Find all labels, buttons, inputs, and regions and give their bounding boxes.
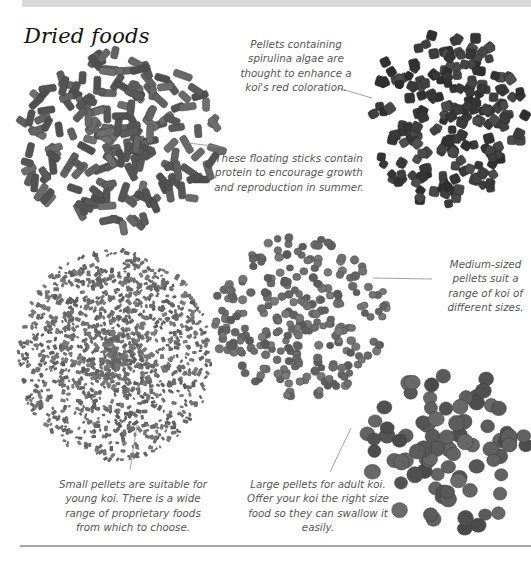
caption-small-pellets: Small pellets are suitable for young koi…: [54, 477, 212, 535]
caption-floating-sticks: These floating sticks contain protein to…: [214, 151, 364, 194]
caption-medium-pellets: Medium-sized pellets suit a range of koi…: [438, 257, 531, 315]
caption-large-pellets: Large pellets for adult koi. Offer your …: [244, 477, 392, 535]
caption-spirulina: Pellets containing spirulina algae are t…: [230, 37, 362, 95]
bottom-divider: [20, 545, 531, 547]
